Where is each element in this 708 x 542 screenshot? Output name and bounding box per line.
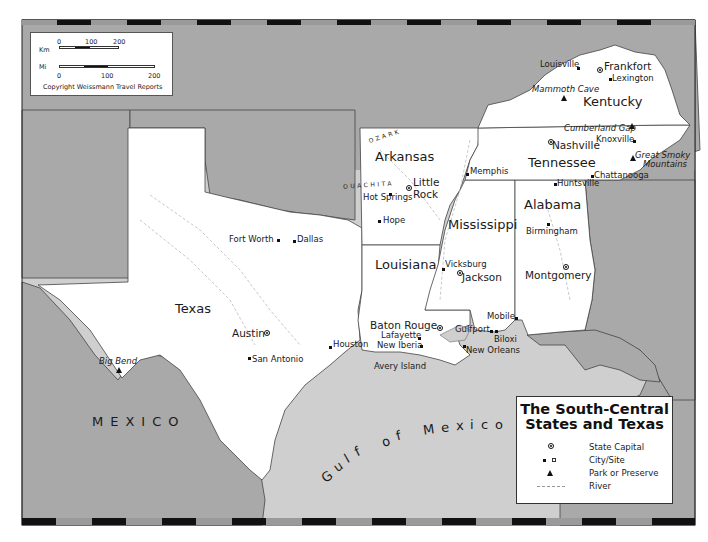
copyright-text: Copyright Weissmann Travel Reports [43, 83, 162, 91]
state-label-texas: Texas [175, 302, 211, 315]
state-label-arkansas: Arkansas [375, 150, 434, 163]
region-label-mexico: MEXICO [92, 415, 185, 428]
city-dot-icon [248, 357, 251, 360]
city-dot-icon [466, 173, 469, 176]
park-triangle-icon [537, 466, 567, 479]
scale-km-tick-0: 0 [57, 38, 61, 46]
city-dot-icon [490, 330, 493, 333]
land-newmexico [22, 110, 130, 278]
scale-km-label: Km [39, 46, 50, 54]
city-label-louisville: Louisville [540, 60, 579, 69]
park-label-big-bend: Big Bend [99, 357, 137, 366]
city-label-huntsville: Huntsville [557, 179, 599, 188]
city-label-memphis: Memphis [470, 167, 508, 176]
park-triangle-icon [561, 95, 567, 101]
city-label-new-orleans: New Orleans [466, 346, 520, 355]
scale-mi-tick-100: 100 [101, 72, 113, 80]
city-label-birmingham: Birmingham [526, 227, 578, 236]
city-label-gulfport: Gulfport [455, 325, 490, 334]
park-triangle-icon [116, 367, 122, 373]
capital-label-baton-rouge: Baton Rouge [370, 320, 437, 331]
state-capital-icon [537, 440, 567, 453]
park-label-great-smoky-2: Mountains [643, 160, 687, 169]
city-label-avery-island: Avery Island [374, 362, 426, 371]
park-label-cumberland-gap: Cumberland Gap [564, 124, 636, 133]
city-dot-icon [329, 346, 332, 349]
map-legend: The South-Central States and Texas State… [516, 396, 673, 504]
city-label-dallas: Dallas [297, 235, 323, 244]
city-label-fort-worth: Fort Worth [229, 235, 274, 244]
scale-km-tick-200: 200 [113, 38, 125, 46]
city-label-new-iberia: New Iberia [377, 341, 422, 350]
city-label-lafayette: Lafayette [381, 331, 421, 340]
state-label-kentucky: Kentucky [583, 95, 642, 108]
legend-row-river: River [517, 479, 672, 492]
capital-label-frankfort: Frankfort [604, 61, 651, 72]
scale-mi-label: Mi [39, 63, 46, 71]
city-label-biloxi: Biloxi [494, 335, 517, 344]
frame-top-ticks [22, 20, 695, 25]
city-dot-icon [378, 220, 381, 223]
city-label-hope: Hope [383, 216, 405, 225]
capital-label-little-rock-1: Little [413, 177, 439, 188]
legend-title: The South-Central States and Texas [517, 402, 672, 432]
city-dot-icon [495, 330, 498, 333]
scale-mi-tick-200: 200 [148, 72, 160, 80]
city-label-vicksburg: Vicksburg [445, 260, 487, 269]
state-capital-icon [437, 325, 443, 331]
river-line-icon [537, 479, 567, 492]
state-capital-icon [597, 67, 603, 73]
state-label-louisiana: Louisiana [375, 258, 436, 271]
capital-label-austin: Austin [232, 328, 265, 339]
legend-row-city-site: City/Site [517, 453, 672, 466]
state-capital-icon [406, 185, 412, 191]
state-label-tennessee: Tennessee [528, 156, 596, 169]
scale-bar-box: Km 0 100 200 Mi 0 100 200 Copyright Weis… [30, 32, 173, 96]
city-label-houston: Houston [333, 340, 368, 349]
city-dot-icon [277, 239, 280, 242]
frame-bottom-ticks [22, 518, 695, 525]
capital-label-nashville: Nashville [552, 140, 600, 151]
city-site-icon [537, 453, 567, 466]
city-label-mobile: Mobile [487, 312, 515, 321]
capital-label-little-rock-2: Rock [413, 189, 438, 200]
city-dot-icon [293, 240, 296, 243]
scale-km-tick-100: 100 [85, 38, 97, 46]
city-label-chattanooga: Chattanooga [594, 171, 649, 180]
capital-label-montgomery: Montgomery [525, 270, 592, 281]
city-dot-icon [515, 317, 518, 320]
city-label-lexington: Lexington [612, 74, 654, 83]
scale-mi-bar [59, 65, 155, 68]
legend-row-park: Park or Preserve [517, 466, 672, 479]
park-label-mammoth-cave: Mammoth Cave [532, 85, 599, 94]
scale-mi-tick-0: 0 [57, 72, 61, 80]
legend-title-line-1: The South-Central [517, 402, 672, 417]
legend-row-state-capital: State Capital [517, 440, 672, 453]
state-label-alabama: Alabama [524, 198, 581, 211]
scale-km-bar [59, 46, 119, 49]
city-label-san-antonio: San Antonio [252, 355, 303, 364]
capital-label-jackson: Jackson [462, 272, 502, 283]
state-label-mississippi: Mississippi [448, 218, 517, 231]
legend-title-line-2: States and Texas [517, 417, 672, 432]
city-label-knoxville: Knoxville [596, 135, 634, 144]
city-label-hot-springs: Hot Springs [363, 193, 413, 202]
